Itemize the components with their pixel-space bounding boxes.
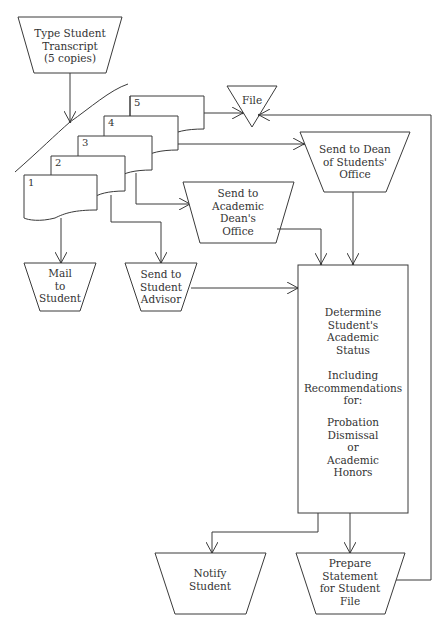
mail-student-label: Mail to Student — [30, 267, 90, 305]
copy-4-number: 4 — [108, 117, 114, 128]
dean-students-label: Send to Dean of Students' Office — [305, 143, 405, 181]
flowchart-canvas: Type Student Transcript (5 copies) File … — [0, 0, 443, 628]
copy-2-number: 2 — [55, 157, 61, 168]
copy-1-number: 1 — [28, 177, 34, 188]
prepare-statement-label: Prepare Statement for Student File — [305, 557, 395, 607]
copy-5-number: 5 — [134, 97, 140, 108]
determine-status-options-label: Probation Dismissal or Academic Honors — [298, 416, 408, 479]
file-shape — [227, 86, 277, 127]
notify-student-label: Notify Student — [170, 567, 250, 592]
type-transcript-label: Type Student Transcript (5 copies) — [22, 27, 118, 65]
student-advisor-label: Send to Student Advisor — [131, 268, 191, 306]
determine-status-main-label: Determine Student's Academic Status — [298, 306, 408, 356]
copy-3-number: 3 — [82, 137, 88, 148]
academic-dean-label: Send to Academic Dean's Office — [190, 187, 286, 237]
determine-status-sub-label: Including Recommendations for: — [298, 369, 408, 407]
file-label: File — [232, 94, 272, 107]
